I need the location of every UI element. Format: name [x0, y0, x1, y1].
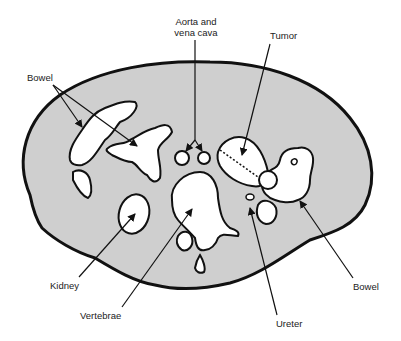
- label-aorta-line1: Aorta and: [168, 16, 224, 27]
- vena-cava: [198, 152, 210, 164]
- label-bowel-left: Bowel: [27, 72, 53, 83]
- label-aorta-line2: vena cava: [168, 27, 224, 38]
- bowel-right-loop: [259, 171, 277, 189]
- label-ureter: Ureter: [276, 318, 302, 329]
- label-vertebrae: Vertebrae: [80, 310, 121, 321]
- bowel-right-lower: [257, 201, 277, 224]
- label-kidney: Kidney: [50, 280, 79, 291]
- vertebrae-process-left: [177, 232, 193, 251]
- label-aorta-vena-cava: Aorta and vena cava: [168, 16, 224, 38]
- ureter: [246, 194, 254, 200]
- aorta: [175, 151, 189, 165]
- label-tumor: Tumor: [270, 30, 297, 41]
- label-bowel-right: Bowel: [353, 281, 379, 292]
